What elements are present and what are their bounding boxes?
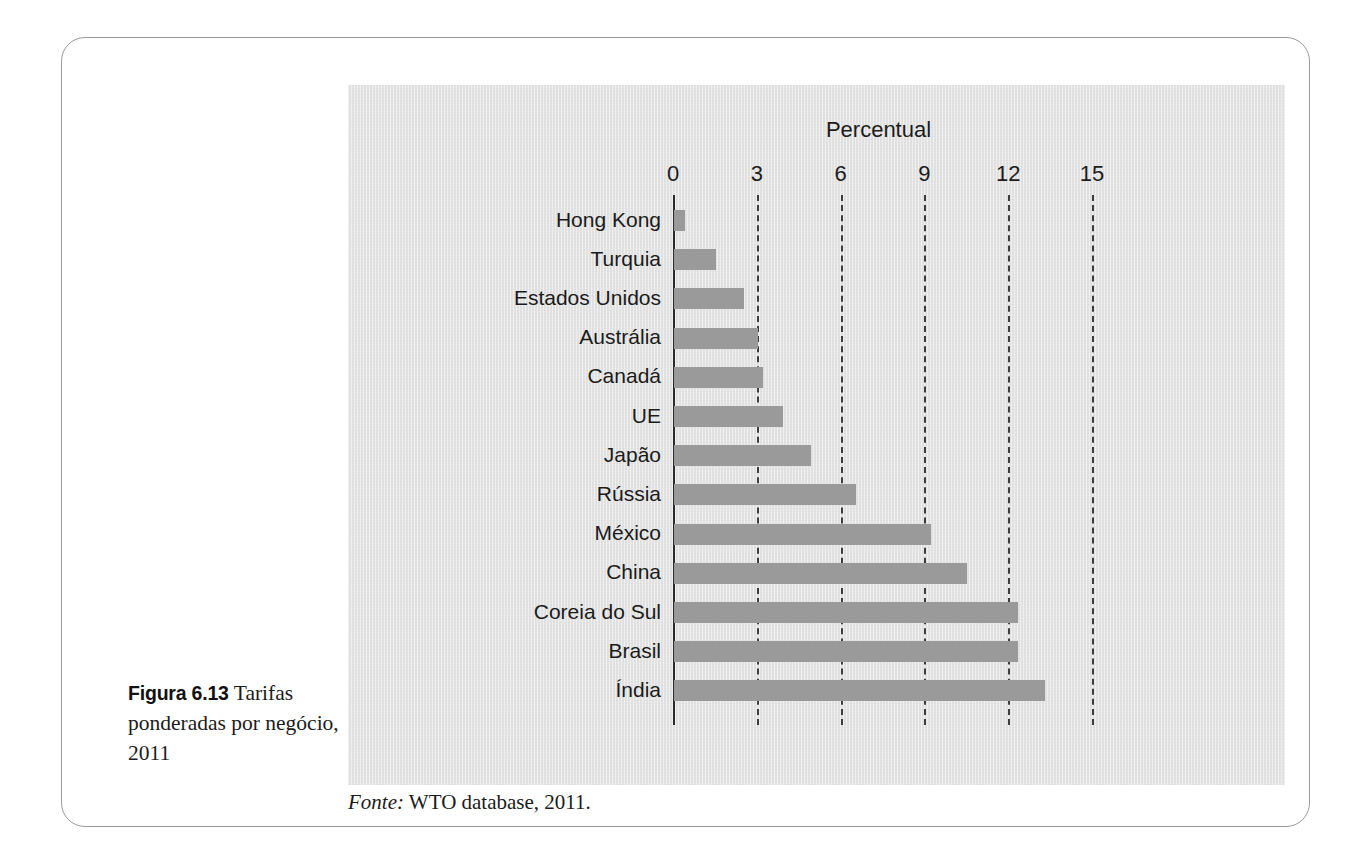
bar <box>674 445 811 466</box>
x-tick-label: 6 <box>834 161 846 187</box>
bar <box>674 210 685 231</box>
source-lead-label: Fonte: <box>348 790 404 814</box>
bar <box>674 602 1018 623</box>
bar <box>674 367 763 388</box>
plot-area: 03691215 <box>348 85 1285 785</box>
bar <box>674 484 856 505</box>
bar <box>674 563 967 584</box>
figure-caption: Figura 6.13 Tarifas ponderadas por negóc… <box>128 678 343 768</box>
x-tick-label: 15 <box>1080 161 1104 187</box>
bar <box>674 288 744 309</box>
x-tick-label: 3 <box>751 161 763 187</box>
bar <box>674 524 931 545</box>
figure-number-label: Figura 6.13 <box>128 682 229 704</box>
chart-panel: Percentual Hong KongTurquiaEstados Unido… <box>348 85 1285 785</box>
x-tick-label: 12 <box>996 161 1020 187</box>
x-tick-label: 0 <box>667 161 679 187</box>
source-note: Fonte: WTO database, 2011. <box>348 790 591 815</box>
gridline-15 <box>1092 195 1094 725</box>
bar <box>674 249 716 270</box>
bar <box>674 406 783 427</box>
bar <box>674 680 1045 701</box>
figure-page: Figura 6.13 Tarifas ponderadas por negóc… <box>0 0 1369 867</box>
bar <box>674 328 758 349</box>
bar <box>674 641 1018 662</box>
x-tick-label: 9 <box>918 161 930 187</box>
source-text: WTO database, 2011. <box>409 790 591 814</box>
